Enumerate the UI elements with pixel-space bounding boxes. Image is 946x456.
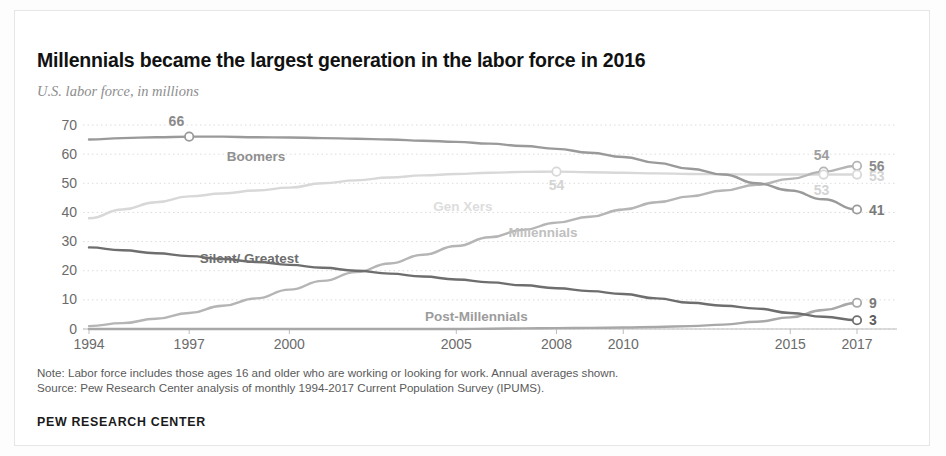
chart-card: Millennials became the largest generatio… [14, 10, 930, 446]
x-axis-tick-label: 2017 [841, 336, 872, 352]
chart-canvas: 0102030405060701994199720002005200820102… [27, 111, 917, 361]
data-point-marker [853, 299, 861, 307]
line-chart: 0102030405060701994199720002005200820102… [27, 111, 917, 361]
data-point-marker [819, 170, 827, 178]
series-line [89, 166, 857, 326]
annotation-genxers-53-2016: 53 [814, 182, 830, 198]
y-axis-tick-label: 30 [61, 233, 77, 249]
y-axis-tick-label: 40 [61, 204, 77, 220]
annotation-genxers-54: 54 [549, 177, 565, 193]
chart-page: Millennials became the largest generatio… [0, 0, 946, 456]
x-axis-tick-label: 1994 [73, 336, 104, 352]
y-axis-tick-label: 70 [61, 117, 77, 133]
annotation-postmillennials-9: 9 [869, 295, 877, 311]
annotation-silent-3: 3 [869, 312, 877, 328]
x-axis-tick-label: 2005 [441, 336, 472, 352]
chart-subtitle: U.S. labor force, in millions [37, 83, 199, 100]
series-label-boomers: Boomers [227, 149, 286, 164]
series-label-millennials: Millennials [509, 225, 578, 240]
annotation-boomers-66: 66 [169, 113, 185, 129]
series-label-silent-greatest: Silent/ Greatest [200, 251, 300, 266]
x-axis-tick-label: 2000 [274, 336, 305, 352]
chart-notes: Note: Labor force includes those ages 16… [37, 366, 867, 395]
x-axis-tick-label: 2008 [541, 336, 572, 352]
y-axis-tick-label: 60 [61, 146, 77, 162]
y-axis-tick-label: 10 [61, 291, 77, 307]
y-axis-tick-label: 0 [69, 321, 77, 337]
data-point-marker [853, 316, 861, 324]
data-point-marker [853, 170, 861, 178]
data-point-marker [853, 205, 861, 213]
data-point-marker [853, 162, 861, 170]
annotation-genxers-53: 53 [869, 168, 885, 184]
note-text: Note: Labor force includes those ages 16… [37, 366, 867, 381]
x-axis-tick-label: 2010 [608, 336, 639, 352]
annotation-boomers-41: 41 [869, 202, 885, 218]
source-text: Source: Pew Research Center analysis of … [37, 381, 867, 396]
annotation-millennials-54: 54 [814, 147, 830, 163]
series-label-genxers: Gen Xers [433, 199, 492, 214]
data-point-marker [552, 167, 560, 175]
pew-research-center-footer: PEW RESEARCH CENTER [37, 415, 206, 429]
x-axis-tick-label: 1997 [174, 336, 205, 352]
x-axis-tick-label: 2015 [775, 336, 806, 352]
y-axis-tick-label: 50 [61, 175, 77, 191]
y-axis-tick-label: 20 [61, 262, 77, 278]
data-point-marker [185, 132, 193, 140]
chart-title: Millennials became the largest generatio… [37, 49, 645, 72]
series-label-post-millennials: Post-Millennials [425, 309, 528, 324]
